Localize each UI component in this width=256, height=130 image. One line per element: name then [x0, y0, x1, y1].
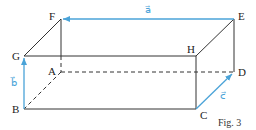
- vertex-G: G: [12, 50, 20, 62]
- vertex-E: E: [238, 10, 245, 22]
- vector-b-label: b⃗: [10, 76, 17, 88]
- vector-c-label: c⃗: [220, 90, 226, 101]
- vertex-B: B: [12, 103, 19, 115]
- vertex-A: A: [48, 65, 56, 77]
- edge-AB: [24, 72, 61, 109]
- vertex-H: H: [187, 43, 195, 55]
- vertex-C: C: [200, 109, 207, 121]
- cuboid-diagram: a⃗ b⃗ c⃗ F E G H A D B C Fig. 3: [0, 0, 256, 130]
- visible-edges: [24, 19, 234, 109]
- hidden-edges: [24, 56, 234, 109]
- figure-caption: Fig. 3: [218, 117, 241, 128]
- vector-c-arrow: [196, 74, 232, 109]
- vertex-F: F: [49, 10, 55, 22]
- vector-a-label: a⃗: [145, 4, 151, 15]
- vectors: [24, 19, 234, 109]
- edge-GF: [24, 19, 61, 56]
- edge-HE: [196, 19, 234, 56]
- vertex-D: D: [238, 66, 246, 78]
